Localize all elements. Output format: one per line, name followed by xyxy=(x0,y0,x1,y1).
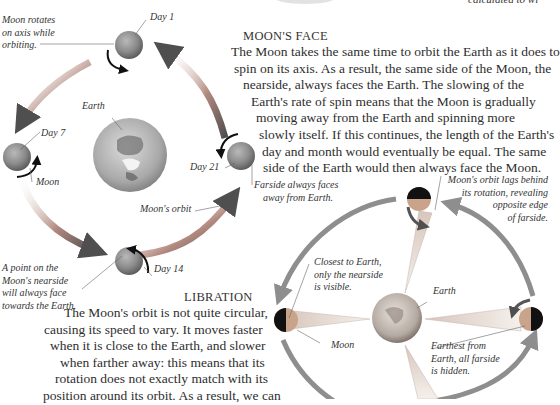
label-orbit-lags: Moon's orbit lags behind its rotation, r… xyxy=(436,174,548,224)
orbit-arrow-day21-to-day1 xyxy=(165,50,225,138)
moons-face-body: The Moon takes the same time to orbit th… xyxy=(220,44,550,177)
libration-heading: LIBRATION xyxy=(184,290,253,305)
label-day-7: Day 7 xyxy=(41,127,65,140)
top-cut-caption: calculated to wi xyxy=(468,0,538,6)
libration-body: The Moon's orbit is not quite circular, … xyxy=(0,305,280,405)
moon-top xyxy=(407,187,431,211)
label-moon-left: Moon xyxy=(36,176,59,189)
label-closest-to-earth: Closest to Earth, only the nearside is v… xyxy=(314,256,383,294)
label-earth-right: Earth xyxy=(433,285,456,298)
label-earth-left: Earth xyxy=(82,100,105,113)
label-farthest-from-earth: Farthest from Earth, all farside is hidd… xyxy=(431,340,500,378)
label-moon-rotates: Moon rotates on axis while orbiting. xyxy=(2,14,55,52)
orbit-arrow-day1-to-day7 xyxy=(22,62,90,122)
moons-face-heading: MOON'S FACE xyxy=(243,29,328,44)
label-day-1: Day 1 xyxy=(150,11,174,24)
label-day-14: Day 14 xyxy=(154,263,183,276)
label-farside-faces: Farside always faces away from Earth. xyxy=(254,179,338,204)
moon-right xyxy=(519,307,543,331)
label-day-21: Day 21 xyxy=(190,161,219,174)
label-moons-orbit: Moon's orbit xyxy=(140,203,191,216)
label-moon-right: Moon xyxy=(331,339,354,352)
